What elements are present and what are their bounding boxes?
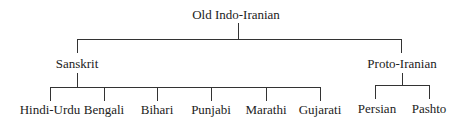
connector-hindi-urdu: [50, 87, 51, 101]
node-persian: Persian: [358, 102, 396, 116]
connector-bihari: [157, 87, 158, 101]
node-bengali: Bengali: [84, 103, 124, 117]
node-pashto: Pashto: [412, 102, 447, 116]
node-bihari: Bihari: [141, 103, 174, 117]
node-sanskrit: Sanskrit: [56, 57, 99, 71]
connector-gujarati: [320, 87, 321, 101]
node-punjabi: Punjabi: [191, 103, 231, 117]
connector-proto-iranian-down: [402, 73, 403, 85]
connector-sanskrit-children: [50, 87, 321, 88]
node-marathi: Marathi: [245, 103, 286, 117]
node-gujarati: Gujarati: [299, 103, 342, 117]
connector-root-branches: [77, 39, 402, 40]
connector-bengali: [104, 87, 105, 101]
connector-sanskrit-down: [77, 73, 78, 87]
connector-pashto: [429, 85, 430, 99]
connector-marathi: [266, 87, 267, 101]
node-proto-iranian: Proto-Iranian: [367, 57, 436, 71]
connector-proto-iranian-up: [401, 39, 402, 53]
connector-sanskrit-up: [77, 39, 78, 53]
node-old-indo-iranian: Old Indo-Iranian: [192, 8, 280, 22]
connector-punjabi: [211, 87, 212, 101]
connector-proto-iranian-children: [375, 85, 430, 86]
connector-root: [238, 23, 239, 39]
connector-persian: [375, 85, 376, 99]
node-hindi-urdu: Hindi-Urdu: [20, 103, 81, 117]
